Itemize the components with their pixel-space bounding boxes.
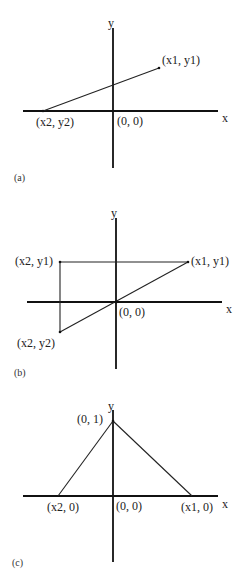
- panel-caption: (c): [12, 557, 23, 569]
- x-axis-label: x: [222, 497, 228, 511]
- point-label-x2-y1: (x2, y1): [15, 254, 53, 268]
- panel-caption: (a): [14, 172, 25, 184]
- point-x1-y1: [187, 261, 190, 264]
- point-label-x1-y1: (x1, y1): [191, 254, 229, 268]
- segment-left: [58, 421, 113, 496]
- point-x2-y2: [42, 110, 45, 113]
- origin-point: [115, 301, 118, 304]
- panel-b: y x (0, 0) (x1, y1) (x2, y1) (x2, y2) (b…: [14, 206, 232, 379]
- point-label-apex: (0, 1): [77, 412, 103, 426]
- point-label-x2-0: (x2, 0): [47, 500, 79, 514]
- point-x2-y1: [59, 261, 62, 264]
- diagram-canvas: y x (0, 0) (x1, y1) (x2, y2) (a) y x (0,…: [0, 0, 243, 574]
- origin-label: (0, 0): [117, 114, 143, 128]
- point-label-x2-y2: (x2, y2): [17, 336, 55, 350]
- y-axis-label: y: [108, 399, 114, 413]
- y-axis-label: y: [111, 206, 117, 220]
- x-axis-label: x: [226, 302, 232, 316]
- panel-c: y x (0, 0) (0, 1) (x2, 0) (x1, 0) (c): [12, 399, 228, 569]
- point-apex: [112, 420, 115, 423]
- panel-caption: (b): [14, 367, 26, 379]
- point-label-x1-y1: (x1, y1): [162, 53, 200, 67]
- point-x2-y2: [59, 331, 62, 334]
- panel-a: y x (0, 0) (x1, y1) (x2, y2) (a): [14, 16, 228, 184]
- segment-right: [113, 421, 192, 496]
- point-x1-y1: [158, 67, 161, 70]
- origin-label: (0, 0): [119, 305, 145, 319]
- y-axis-label: y: [108, 16, 114, 30]
- origin-label: (0, 0): [116, 499, 142, 513]
- segment-p2-p1: [43, 68, 159, 111]
- point-label-x2-y2: (x2, y2): [36, 115, 74, 129]
- x-axis-label: x: [222, 111, 228, 125]
- segment-diagonal: [60, 262, 188, 332]
- point-label-x1-0: (x1, 0): [181, 500, 213, 514]
